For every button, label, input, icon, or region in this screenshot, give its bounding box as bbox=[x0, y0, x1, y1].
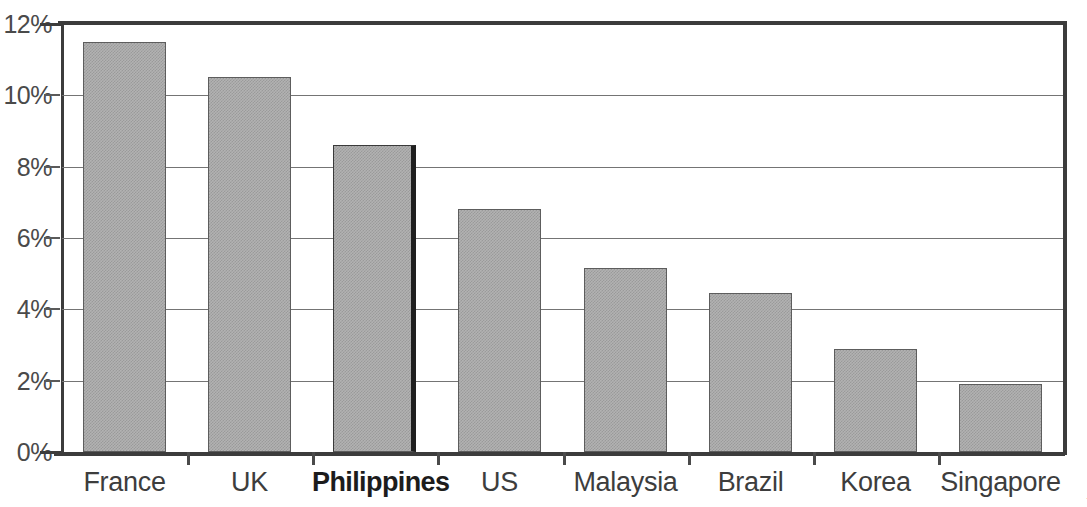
x-axis-label: Malaysia bbox=[563, 462, 688, 502]
bar bbox=[458, 209, 541, 452]
plot-area bbox=[62, 24, 1063, 452]
x-axis-label: France bbox=[62, 462, 187, 502]
x-axis: FranceUKPhilippinesUSMalaysiaBrazilKorea… bbox=[62, 462, 1063, 507]
y-axis-tick bbox=[44, 308, 60, 310]
y-axis-tick bbox=[40, 23, 62, 26]
x-axis-label: Korea bbox=[813, 462, 938, 502]
x-axis-label: Philippines bbox=[312, 462, 437, 502]
bar-chart: 0%2%4%6%8%10%12% FranceUKPhilippinesUSMa… bbox=[0, 0, 1087, 507]
plot-border-top bbox=[58, 21, 1065, 25]
bar bbox=[834, 349, 917, 452]
x-axis-label: Brazil bbox=[688, 462, 813, 502]
y-axis-tick bbox=[44, 166, 60, 168]
x-axis-label: US bbox=[437, 462, 562, 502]
bar bbox=[83, 42, 166, 452]
x-axis-label: Singapore bbox=[938, 462, 1063, 502]
y-axis-tick bbox=[44, 237, 60, 239]
y-axis-tick bbox=[44, 94, 60, 96]
bar bbox=[333, 145, 416, 452]
bar bbox=[709, 293, 792, 452]
bar bbox=[208, 77, 291, 452]
bar bbox=[959, 384, 1042, 452]
bar bbox=[584, 268, 667, 452]
y-axis-tick bbox=[40, 451, 62, 454]
y-axis-tick bbox=[44, 380, 60, 382]
plot-border-right bbox=[1063, 21, 1067, 455]
x-axis-label: UK bbox=[187, 462, 312, 502]
y-axis: 0%2%4%6%8%10%12% bbox=[0, 0, 52, 507]
